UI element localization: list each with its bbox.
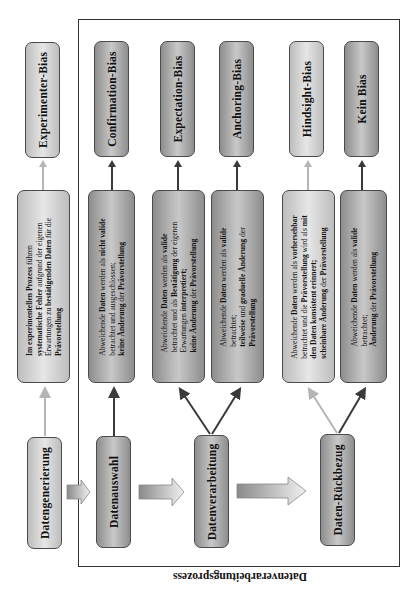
process-label: Datengenerierung xyxy=(39,447,51,539)
frame-label: Datenverarbeitungsprozess xyxy=(135,571,345,583)
process-label: Datenauswahl xyxy=(108,456,120,528)
process-step-datenauswahl: Datenauswahl xyxy=(96,436,131,548)
process-label: Datenverarbeitung xyxy=(206,443,218,540)
process-step-datenverarbeitung: Datenverarbeitung xyxy=(194,435,229,548)
process-label: Daten-Rückbezug xyxy=(332,444,344,535)
process-step-datengenerierung: Datengenerierung xyxy=(27,437,62,549)
process-step-daten-rueckbezug: Daten-Rückbezug xyxy=(320,434,355,546)
